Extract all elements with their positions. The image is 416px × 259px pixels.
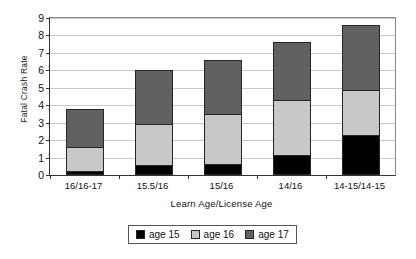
x-tick-label: 15/16 [187,180,256,191]
bar-segment-age-17[interactable] [273,42,311,100]
stacked-bar[interactable] [204,60,242,175]
bar-segment-age-16[interactable] [273,100,311,155]
bar-segment-age-16[interactable] [66,147,104,171]
bar-segment-age-16[interactable] [135,124,173,166]
legend-item-age-17[interactable]: age 17 [245,229,289,240]
bar-segment-age-15[interactable] [273,155,311,175]
x-tick-label: 14/16 [256,180,325,191]
bar-segment-age-15[interactable] [342,135,380,175]
x-axis-title: Learn Age/License Age [49,198,394,209]
legend-item-age-16[interactable]: age 16 [191,229,235,240]
x-axis-tick-labels: 16/16-1715.5/1615/1614/1614-15/14-15 [49,180,394,191]
bar-series-group [50,18,395,175]
x-tick-mark [119,175,120,179]
bar-slot [50,18,119,175]
stacked-bar[interactable] [66,109,104,175]
legend-swatch [136,230,145,239]
bar-segment-age-17[interactable] [204,60,242,114]
bar-segment-age-17[interactable] [342,25,380,90]
legend-label: age 15 [149,229,180,240]
bar-segment-age-15[interactable] [66,171,104,175]
bar-segment-age-15[interactable] [204,164,242,175]
x-tick-label: 14-15/14-15 [325,180,394,191]
stacked-bar[interactable] [342,25,380,175]
y-tick-label: 9 [38,13,50,24]
y-tick-label: 5 [38,83,50,94]
legend-label: age 16 [204,229,235,240]
bar-slot [188,18,257,175]
y-tick-label: 6 [38,65,50,76]
y-tick-label: 3 [38,117,50,128]
bar-slot [326,18,395,175]
legend-label: age 17 [258,229,289,240]
y-tick-label: 7 [38,48,50,59]
plot-area: 0123456789 [49,17,396,176]
bar-segment-age-16[interactable] [342,90,380,135]
legend-swatch [191,230,200,239]
y-tick-label: 4 [38,100,50,111]
bar-segment-age-17[interactable] [66,109,104,147]
y-tick-label: 8 [38,30,50,41]
legend-item-age-15[interactable]: age 15 [136,229,180,240]
stacked-bar[interactable] [273,42,311,175]
y-tick-label: 1 [38,152,50,163]
y-tick-label: 2 [38,135,50,146]
fatal-crash-rate-chart: Fatal Crash Rate 0123456789 16/16-1715.5… [0,0,416,259]
legend-swatch [245,230,254,239]
y-axis-title: Fatal Crash Rate [19,24,29,154]
x-tick-label: 16/16-17 [49,180,118,191]
bar-segment-age-15[interactable] [135,165,173,175]
bar-slot [119,18,188,175]
x-tick-label: 15.5/16 [118,180,187,191]
x-tick-mark [188,175,189,179]
stacked-bar[interactable] [135,70,173,175]
bar-segment-age-17[interactable] [135,70,173,123]
chart-legend: age 15age 16age 17 [128,225,297,244]
x-tick-mark [50,175,51,179]
x-tick-mark [257,175,258,179]
bar-slot [257,18,326,175]
gridline [50,175,395,176]
x-tick-mark [326,175,327,179]
bar-segment-age-16[interactable] [204,114,242,164]
y-tick-label: 0 [38,170,50,181]
